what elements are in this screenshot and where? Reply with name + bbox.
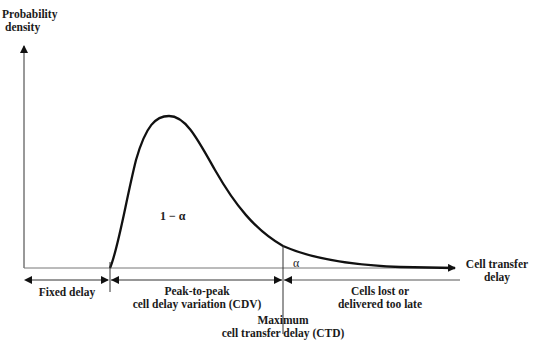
y-axis-label-line1: Probability [2,8,48,21]
ctd-label-line2: cell transfer delay (CTD) [213,327,353,340]
ctd-label: Maximum cell transfer delay (CTD) [213,314,353,340]
area-label-tail: α [293,256,299,271]
ctd-label-line1: Maximum [213,314,353,327]
area-label-main: 1 − α [160,209,186,224]
arrowhead-left-icon [284,276,292,284]
interval-lost-cells: Cells lost or delivered too late [300,285,460,311]
arrowhead-left-icon [111,276,119,284]
arrowhead-right-icon [101,276,109,284]
density-curve [110,116,455,268]
interval-fixed-delay-label: Fixed delay [28,286,106,299]
interval-cdv-line1: Peak-to-peak [112,285,282,298]
interval-cdv: Peak-to-peak cell delay variation (CDV) [112,285,282,311]
interval-cdv-line2: cell delay variation (CDV) [112,298,282,311]
interval-lost-cells-line1: Cells lost or [300,285,460,298]
x-axis-label-line1: Cell transfer [462,258,532,271]
x-axis-label: Cell transfer delay [462,258,532,284]
y-axis-label-line2: density [2,21,48,34]
interval-lost-cells-line2: delivered too late [300,298,460,311]
x-axis-label-line2: delay [462,271,532,284]
interval-fixed-delay: Fixed delay [28,286,106,299]
arrowhead-left-icon [24,276,32,284]
arrowhead-right-icon [274,276,282,284]
y-axis-label: Probability density [2,8,48,34]
